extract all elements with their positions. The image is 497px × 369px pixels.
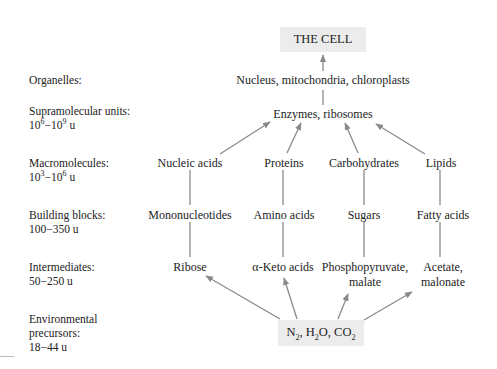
arrow-lipids-to-enzymes <box>376 124 425 154</box>
range-unit: u <box>69 119 75 131</box>
formula-part: O, CO <box>319 325 352 339</box>
arrow-precursors-to-ketoacids <box>284 278 297 319</box>
level-range: 100−350 u <box>29 222 105 236</box>
level-range: 18−44 u <box>29 340 97 354</box>
level-label-text: Macromolecules: <box>29 156 109 170</box>
arrow-precursors-to-ribose <box>206 276 280 319</box>
formula-part: N <box>287 325 296 339</box>
node-fatty-acids: Fatty acids <box>417 208 469 223</box>
range-exp: 6 <box>41 117 45 126</box>
range-base: 10 <box>29 119 41 131</box>
level-label-macromolecules: Macromolecules: 103−106 u <box>29 156 109 184</box>
level-label-supramolecular: Supramolecular units: 106−109 u <box>29 104 130 132</box>
arrow-precursors-to-phosphopyruvate <box>338 294 348 319</box>
range-base: 10 <box>51 119 63 131</box>
range-exp: 9 <box>63 117 67 126</box>
level-label-text: Organelles: <box>29 74 82 86</box>
range-exp: 3 <box>41 169 45 178</box>
node-text: α-Keto acids <box>252 260 313 275</box>
node-keto-acids: α-Keto acids <box>252 260 313 275</box>
arrow-precursors-to-acetate <box>364 292 412 320</box>
node-text: Phosphopyruvate, <box>322 260 408 275</box>
node-carbohydrates: Carbohydrates <box>329 156 399 171</box>
cell-box-label: THE CELL <box>294 32 353 46</box>
range-base: 10 <box>51 171 63 183</box>
node-phosphopyruvate-malate: Phosphopyruvate, malate <box>322 260 408 290</box>
node-supramolecular: Enzymes, ribosomes <box>273 107 372 122</box>
range-base: 10 <box>29 171 41 183</box>
node-text: malonate <box>421 275 465 290</box>
node-text: Ribose <box>173 260 206 275</box>
formula-subscript: 2 <box>351 333 355 342</box>
level-label-environmental: Environmental precursors: 18−44 u <box>29 312 97 354</box>
node-organelles: Nucleus, mitochondria, chloroplasts <box>236 73 409 88</box>
cell-box: THE CELL <box>280 27 366 52</box>
level-label-organelles: Organelles: <box>29 73 82 87</box>
range-unit: u <box>69 171 75 183</box>
level-range: 106−109 u <box>29 118 130 132</box>
level-label-text: Environmental <box>29 312 97 326</box>
level-label-text: Supramolecular units: <box>29 104 130 118</box>
arrow-proteins-to-enzymes <box>287 123 301 153</box>
level-range: 50−250 u <box>29 274 95 288</box>
arrow-carbohydrates-to-enzymes <box>345 123 358 153</box>
level-label-text: precursors: <box>29 326 97 340</box>
level-label-intermediates: Intermediates: 50−250 u <box>29 260 95 288</box>
node-ribose: Ribose <box>173 260 206 275</box>
node-nucleic-acids: Nucleic acids <box>158 156 223 171</box>
formula-part: , H <box>300 325 315 339</box>
node-text: malate <box>322 275 408 290</box>
node-amino-acids: Amino acids <box>254 208 315 223</box>
node-acetate-malonate: Acetate, malonate <box>421 260 465 290</box>
node-proteins: Proteins <box>264 156 303 171</box>
arrow-nucleic-to-enzymes <box>220 122 270 154</box>
node-lipids: Lipids <box>426 156 457 171</box>
precursors-box: N2, H2O, CO2 <box>278 320 364 346</box>
level-label-text: Intermediates: <box>29 260 95 274</box>
precursors-label: N2, H2O, CO2 <box>287 325 356 339</box>
node-sugars: Sugars <box>348 208 381 223</box>
divider-stub <box>0 356 14 357</box>
range-exp: 6 <box>63 169 67 178</box>
node-mononucleotides: Mononucleotides <box>148 208 231 223</box>
level-label-text: Building blocks: <box>29 208 105 222</box>
level-range: 103−106 u <box>29 170 109 184</box>
level-label-building-blocks: Building blocks: 100−350 u <box>29 208 105 236</box>
node-text: Acetate, <box>421 260 465 275</box>
